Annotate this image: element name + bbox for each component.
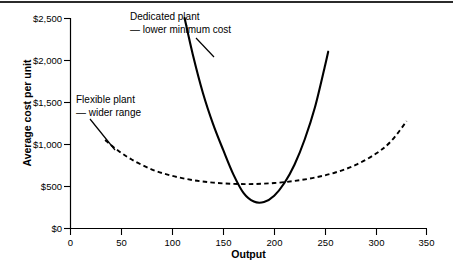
flexible-plant-annotation-line1: Flexible plant	[76, 94, 135, 105]
series-dedicated-plant	[185, 18, 329, 203]
y-tick-label-0: $0	[14, 223, 62, 234]
x-axis-title: Output	[70, 248, 427, 260]
dedicated-plant-annotation-line2: — lower minimum cost	[130, 24, 231, 37]
chart-figure: $0 $500 $1,000 $1,500 $2,000 $2,500 0 50…	[0, 0, 453, 276]
flexible-plant-annotation: Flexible plant — wider range	[76, 94, 141, 119]
plot-area	[0, 0, 453, 276]
flexible-plant-annotation-line2: — wider range	[76, 107, 141, 120]
x-tick-label-300: 300	[362, 237, 391, 248]
dedicated-plant-leader-line	[196, 38, 214, 57]
x-tick-marks	[71, 229, 427, 236]
dedicated-plant-annotation-line1: Dedicated plant	[130, 11, 200, 22]
dedicated-plant-annotation: Dedicated plant — lower minimum cost	[130, 11, 231, 36]
x-tick-label-350: 350	[412, 237, 441, 248]
x-tick-label-100: 100	[158, 237, 187, 248]
x-tick-label-250: 250	[311, 237, 340, 248]
series-flexible-plant	[105, 121, 407, 184]
y-tick-marks	[64, 19, 71, 229]
x-tick-label-200: 200	[260, 237, 289, 248]
x-tick-label-0: 0	[56, 237, 85, 248]
x-tick-label-150: 150	[209, 237, 238, 248]
flexible-plant-leader-line	[90, 119, 115, 150]
y-axis-title: Average cost per unit	[21, 23, 33, 203]
x-tick-label-50: 50	[107, 237, 136, 248]
